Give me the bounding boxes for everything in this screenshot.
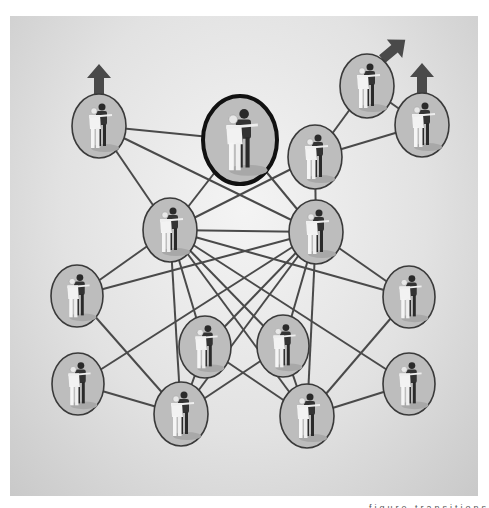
partner-head-icon [173,396,179,402]
partner-leg-icon [229,143,234,171]
dancer-head-icon [181,392,188,399]
nodes-layer [51,54,449,448]
dancer-head-icon [170,208,177,215]
node-start-figure[interactable] [203,96,277,184]
node-dip-figure-2[interactable] [280,384,334,448]
partner-leg-icon [401,299,404,318]
caption-text: figure transitions [0,500,489,508]
partner-leg-icon [313,234,317,254]
partner-leg-icon [299,418,303,438]
node-solo-figure[interactable] [288,125,342,189]
edge-n7-n8 [77,232,316,296]
node-side-by-side-figure[interactable] [143,198,197,262]
dancer-leg-icon [320,230,323,252]
dancer-leg-icon [319,155,322,177]
node-turn-figure-2[interactable] [257,315,309,377]
direction-arrow-icon [410,63,434,93]
partner-leg-icon [167,232,171,252]
dancer-leg-icon [426,123,429,145]
node-dip-figure[interactable] [154,382,208,446]
partner-head-icon [275,328,281,334]
partner-leg-icon [202,349,205,368]
dancer-leg-icon [371,84,374,106]
dancer-leg-icon [103,124,106,146]
partner-head-icon [91,108,97,114]
dancer-head-icon [307,394,314,401]
dancer-leg-icon [209,345,212,366]
partner-head-icon [229,115,238,124]
partner-leg-icon [173,416,177,436]
dancer-head-icon [239,109,249,119]
node-closed-hold-figure[interactable] [51,265,103,327]
dance-network-diagram [0,0,489,508]
dancer-head-icon [316,210,323,217]
dancer-leg-icon [174,228,177,250]
partner-head-icon [197,329,203,335]
dancer-head-icon [205,325,212,332]
partner-leg-icon [178,416,182,436]
node-solo-turn-figure[interactable] [72,94,126,158]
partner-leg-icon [308,234,312,254]
partner-leg-icon [406,299,409,318]
partner-head-icon [70,366,76,372]
node-turn-figure[interactable] [179,316,231,378]
node-promenade-figure-2[interactable] [383,353,435,415]
partner-leg-icon [91,128,95,148]
partner-leg-icon [364,88,368,108]
partner-head-icon [414,107,420,113]
dancer-head-icon [77,274,84,281]
dancer-head-icon [78,362,85,369]
dancer-head-icon [315,135,322,142]
partner-leg-icon [75,386,78,405]
dancer-head-icon [409,362,416,369]
dancer-leg-icon [81,294,84,315]
dancer-head-icon [422,103,429,110]
partner-leg-icon [69,298,72,317]
partner-leg-icon [414,127,418,147]
partner-head-icon [162,212,168,218]
partner-leg-icon [401,386,404,405]
partner-head-icon [307,139,313,145]
partner-leg-icon [197,349,200,368]
partner-leg-icon [307,159,311,179]
dancer-leg-icon [413,295,416,316]
node-step-sideways-figure-2[interactable] [395,93,449,157]
dancer-head-icon [283,324,290,331]
partner-leg-icon [162,232,166,252]
partner-head-icon [308,214,314,220]
partner-leg-icon [70,386,73,405]
partner-leg-icon [236,143,241,171]
partner-leg-icon [312,159,316,179]
dancer-head-icon [367,64,374,71]
node-side-by-side-figure-2[interactable] [289,200,343,264]
node-step-sideways-figure[interactable] [340,54,394,118]
dancer-head-icon [409,275,416,282]
partner-leg-icon [419,127,423,147]
dancer-leg-icon [413,382,416,403]
partner-leg-icon [280,348,283,367]
partner-leg-icon [96,128,100,148]
partner-leg-icon [359,88,363,108]
node-promenade-figure[interactable] [52,353,104,415]
partner-leg-icon [275,348,278,367]
dancer-leg-icon [287,344,290,365]
partner-leg-icon [74,298,77,317]
dancer-head-icon [99,104,106,111]
partner-leg-icon [406,386,409,405]
partner-head-icon [401,279,407,285]
partner-head-icon [359,68,365,74]
partner-head-icon [69,278,75,284]
dancer-leg-icon [311,414,314,436]
partner-head-icon [401,366,407,372]
partner-head-icon [299,398,305,404]
partner-leg-icon [304,418,308,438]
dancer-leg-icon [185,412,188,434]
dancer-leg-icon [82,382,85,403]
direction-arrow-icon [87,64,111,94]
dancer-leg-icon [246,137,250,167]
node-closed-hold-figure-2[interactable] [383,266,435,328]
